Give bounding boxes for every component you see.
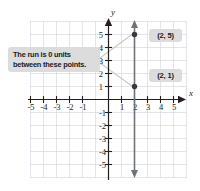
x-tick-label: 5 bbox=[172, 102, 176, 112]
x-tick-label: -3 bbox=[53, 102, 60, 112]
x-tick-label: 4 bbox=[159, 102, 164, 112]
y-tick-label: -2 bbox=[99, 121, 106, 131]
x-tick-label: 3 bbox=[146, 102, 150, 112]
data-point-2-5 bbox=[132, 32, 137, 37]
x-tick-label: -5 bbox=[27, 102, 34, 112]
x-axis-label: x bbox=[188, 88, 193, 98]
x-tick-label: -1 bbox=[79, 102, 86, 112]
y-axis-label: y bbox=[110, 7, 115, 17]
coordinate-plane-figure: x y -5 -4 -3 -2 -1 1 2 3 4 5 5 4 3 2 1 -… bbox=[0, 0, 200, 191]
y-tick-label: 1 bbox=[99, 82, 103, 92]
point-label-2-1: (2, 1) bbox=[149, 69, 182, 82]
data-point-2-1 bbox=[132, 84, 137, 89]
x-tick-label: 1 bbox=[120, 102, 124, 112]
run-annotation-line-1: The run is 0 units bbox=[13, 50, 96, 60]
run-annotation-callout: The run is 0 units between these points. bbox=[8, 47, 100, 72]
x-tick-label: -4 bbox=[40, 102, 48, 112]
y-tick-label: -5 bbox=[99, 160, 106, 170]
x-tick-label: -2 bbox=[66, 102, 73, 112]
y-tick-label: -3 bbox=[99, 134, 106, 144]
run-annotation-line-2: between these points. bbox=[13, 60, 96, 70]
y-tick-label: -4 bbox=[99, 147, 107, 157]
point-label-2-5: (2, 5) bbox=[149, 29, 182, 42]
y-tick-label: 5 bbox=[99, 30, 103, 40]
y-tick-label: -1 bbox=[99, 108, 106, 118]
